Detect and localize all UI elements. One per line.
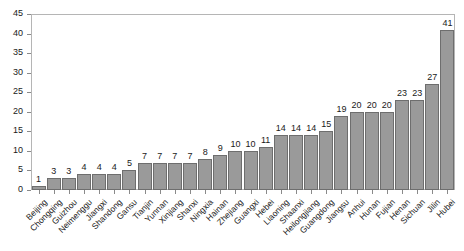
x-tick-mark <box>372 190 373 194</box>
bar-group[interactable]: 11 <box>259 14 273 190</box>
bar[interactable] <box>289 135 303 190</box>
bar[interactable] <box>244 151 258 190</box>
bar[interactable] <box>334 116 348 190</box>
bar[interactable] <box>47 178 61 190</box>
bar-value-label: 20 <box>352 100 362 110</box>
bar[interactable] <box>92 174 106 190</box>
bar-group[interactable]: 7 <box>183 14 197 190</box>
x-tick-mark <box>235 190 236 194</box>
bar-value-label: 23 <box>412 88 422 98</box>
x-tick-mark <box>417 190 418 194</box>
bar[interactable] <box>380 112 394 190</box>
bar-group[interactable]: 10 <box>228 14 242 190</box>
bar-group[interactable]: 1 <box>32 14 46 190</box>
bar-group[interactable]: 15 <box>319 14 333 190</box>
bar-value-label: 7 <box>142 151 147 161</box>
x-tick-mark <box>160 190 161 194</box>
bar-group[interactable]: 4 <box>92 14 106 190</box>
bar[interactable] <box>168 163 182 190</box>
x-tick-mark <box>341 190 342 194</box>
bar[interactable] <box>440 30 454 190</box>
y-tick-label: 0 <box>18 184 23 195</box>
bar-group[interactable]: 20 <box>380 14 394 190</box>
x-tick-mark <box>39 190 40 194</box>
x-tick-mark <box>205 190 206 194</box>
bar[interactable] <box>350 112 364 190</box>
bar-group[interactable]: 3 <box>62 14 76 190</box>
x-tick-mark <box>190 190 191 194</box>
bar-value-label: 5 <box>127 158 132 168</box>
x-tick-mark <box>326 190 327 194</box>
bar-group[interactable]: 7 <box>153 14 167 190</box>
x-tick-mark <box>402 190 403 194</box>
bar-group[interactable]: 23 <box>410 14 424 190</box>
y-tick-label: 10 <box>13 145 23 156</box>
bar-value-label: 20 <box>382 100 392 110</box>
bar-group[interactable]: 9 <box>213 14 227 190</box>
bar[interactable] <box>77 174 91 190</box>
bar-group[interactable]: 10 <box>244 14 258 190</box>
bar-group[interactable]: 4 <box>107 14 121 190</box>
bar-value-label: 15 <box>321 119 331 129</box>
x-tick-mark <box>266 190 267 194</box>
bar[interactable] <box>62 178 76 190</box>
y-tick-label: 35 <box>13 47 23 58</box>
bar-value-label: 8 <box>203 147 208 157</box>
x-tick-mark <box>114 190 115 194</box>
bar-group[interactable]: 19 <box>334 14 348 190</box>
x-tick-mark <box>220 190 221 194</box>
bar-group[interactable]: 8 <box>198 14 212 190</box>
x-tick-mark <box>296 190 297 194</box>
bar-value-label: 19 <box>336 104 346 114</box>
x-tick-mark <box>54 190 55 194</box>
bar[interactable] <box>410 100 424 190</box>
bar-value-label: 7 <box>187 151 192 161</box>
x-tick-mark <box>387 190 388 194</box>
x-tick-mark <box>432 190 433 194</box>
bar[interactable] <box>319 131 333 190</box>
bar[interactable] <box>122 170 136 190</box>
bar[interactable] <box>183 163 197 190</box>
bar-group[interactable]: 7 <box>138 14 152 190</box>
bar-value-label: 41 <box>442 18 452 28</box>
bar[interactable] <box>213 155 227 190</box>
bar-group[interactable]: 14 <box>304 14 318 190</box>
bar[interactable] <box>138 163 152 190</box>
x-tick-mark <box>129 190 130 194</box>
y-axis: 051015202530354045 <box>0 0 31 196</box>
x-tick-mark <box>175 190 176 194</box>
bar-group[interactable]: 4 <box>77 14 91 190</box>
bar[interactable] <box>259 147 273 190</box>
bar-value-label: 3 <box>51 166 56 176</box>
bar-group[interactable]: 20 <box>365 14 379 190</box>
bar-group[interactable]: 27 <box>425 14 439 190</box>
bar-group[interactable]: 14 <box>274 14 288 190</box>
x-tick-mark <box>99 190 100 194</box>
bar-group[interactable]: 41 <box>440 14 454 190</box>
bar-group[interactable]: 5 <box>122 14 136 190</box>
bar[interactable] <box>365 112 379 190</box>
bar[interactable] <box>274 135 288 190</box>
y-tick-label: 25 <box>13 86 23 97</box>
bar-value-label: 23 <box>397 88 407 98</box>
bar-group[interactable]: 3 <box>47 14 61 190</box>
bar-group[interactable]: 20 <box>350 14 364 190</box>
bar[interactable] <box>198 159 212 190</box>
bar[interactable] <box>425 84 439 190</box>
bar-value-label: 7 <box>157 151 162 161</box>
x-tick-mark <box>251 190 252 194</box>
bar-value-label: 4 <box>97 162 102 172</box>
bar-value-label: 10 <box>230 139 240 149</box>
bar-group[interactable]: 23 <box>395 14 409 190</box>
bar[interactable] <box>107 174 121 190</box>
bar-group[interactable]: 14 <box>289 14 303 190</box>
bar[interactable] <box>395 100 409 190</box>
bar-value-label: 14 <box>276 123 286 133</box>
bar[interactable] <box>228 151 242 190</box>
bar-group[interactable]: 7 <box>168 14 182 190</box>
bar[interactable] <box>153 163 167 190</box>
bar-value-label: 27 <box>427 72 437 82</box>
x-tick-mark <box>357 190 358 194</box>
bar[interactable] <box>304 135 318 190</box>
x-tick-mark <box>281 190 282 194</box>
